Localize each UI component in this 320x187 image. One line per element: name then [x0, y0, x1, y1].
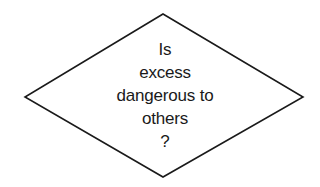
- question-line-3: dangerous to: [60, 84, 270, 107]
- question-line-2: excess: [60, 61, 270, 84]
- question-line-4: others: [60, 107, 270, 130]
- question-line-1: Is: [60, 38, 270, 61]
- question-line-5: ?: [60, 130, 270, 153]
- decision-question: Is excess dangerous to others ?: [60, 38, 270, 153]
